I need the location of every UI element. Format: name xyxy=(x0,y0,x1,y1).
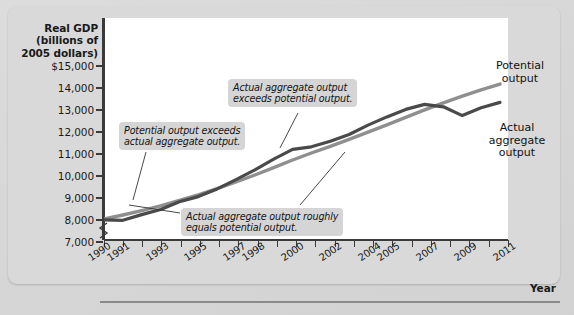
y-axis-tick xyxy=(96,197,103,199)
y-axis-tick xyxy=(96,65,103,67)
y-tick-label: $15,000 xyxy=(22,60,94,72)
label-potential-output: Potential output xyxy=(487,60,553,85)
y-tick-label: 7,000 xyxy=(22,236,94,248)
y-tick-label: 11,000 xyxy=(22,148,94,160)
x-axis-tick xyxy=(181,240,182,247)
y-tick-label: 8,000 xyxy=(22,214,94,226)
figure-container: Real GDP (billions of 2005 dollars) $15,… xyxy=(0,0,574,315)
x-axis-tick xyxy=(142,240,143,247)
annotation-roughly-equals: Actual aggregate output roughly equals p… xyxy=(181,208,343,236)
y-axis-tick xyxy=(96,87,103,89)
y-axis-tick xyxy=(96,219,103,221)
y-axis-tick xyxy=(96,175,103,177)
label-actual-aggregate-output: Actual aggregate output xyxy=(478,122,556,160)
x-axis-tick xyxy=(277,240,278,247)
x-axis-tick xyxy=(412,240,413,247)
x-axis-tick xyxy=(354,240,355,247)
y-axis-tick xyxy=(96,109,103,111)
y-tick-label: 12,000 xyxy=(22,126,94,138)
y-tick-label: 13,000 xyxy=(22,104,94,116)
y-tick-label: 14,000 xyxy=(22,82,94,94)
x-axis-tick xyxy=(315,240,316,247)
y-axis-tick xyxy=(96,131,103,133)
x-axis-title: Year xyxy=(530,282,556,294)
y-axis-title: Real GDP (billions of 2005 dollars) xyxy=(10,22,98,59)
annotation-potential-exceeds: Potential output exceeds actual aggregat… xyxy=(119,122,245,150)
x-axis-tick xyxy=(489,240,490,247)
annotation-actual-exceeds: Actual aggregate output exceeds potentia… xyxy=(228,79,357,107)
y-tick-label: 10,000 xyxy=(22,170,94,182)
x-axis-tick xyxy=(450,240,451,247)
y-tick-label: 9,000 xyxy=(22,192,94,204)
x-axis-tick xyxy=(219,240,220,247)
footer-rule xyxy=(100,301,560,303)
y-axis-tick xyxy=(96,153,103,155)
actual-aggregate-output-line xyxy=(104,102,500,220)
